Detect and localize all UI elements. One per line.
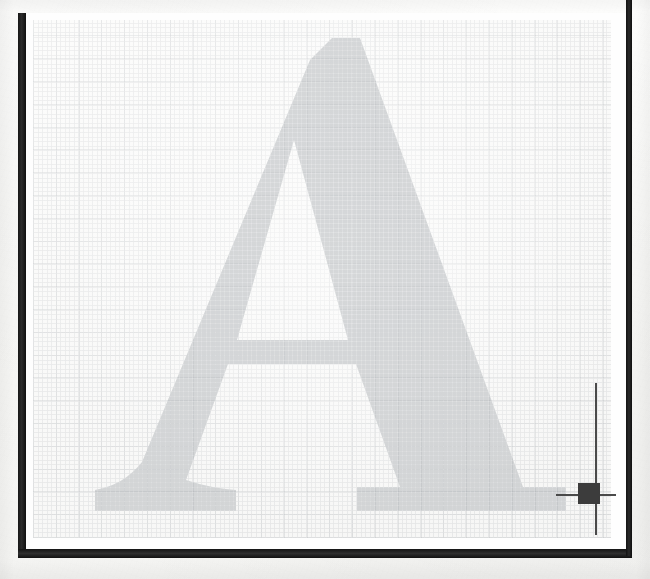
grid-major-lines	[33, 20, 611, 538]
grid-light-wash	[33, 20, 611, 538]
right-frame-rule	[626, 0, 632, 556]
crosshair-handle[interactable]	[578, 483, 600, 504]
left-frame-bar	[18, 13, 26, 558]
screenshot-canvas	[0, 0, 650, 579]
bottom-frame-bar	[18, 549, 632, 558]
crosshair-vertical-line	[595, 383, 597, 535]
graph-paper-grid	[33, 20, 611, 538]
